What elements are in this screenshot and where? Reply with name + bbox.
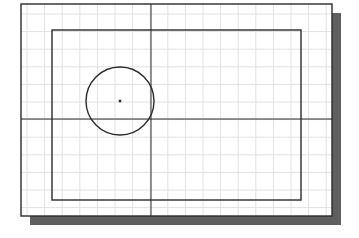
cad-drawing [0, 0, 359, 238]
circle-center-point [119, 100, 122, 103]
paper-frame [21, 4, 332, 216]
